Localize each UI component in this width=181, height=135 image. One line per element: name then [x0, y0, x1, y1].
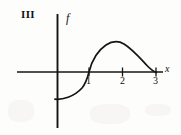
curve-f	[55, 42, 156, 99]
x-tick-label-1: 1	[86, 76, 91, 86]
panel-label-roman: III	[21, 9, 35, 20]
y-axis-label: f	[66, 12, 69, 24]
figure-panel: III f x 1 2 3	[0, 0, 181, 135]
function-graph	[0, 0, 181, 135]
x-axis-label: x	[165, 64, 169, 74]
x-tick-label-2: 2	[120, 76, 125, 86]
x-tick-label-3: 3	[153, 76, 158, 86]
